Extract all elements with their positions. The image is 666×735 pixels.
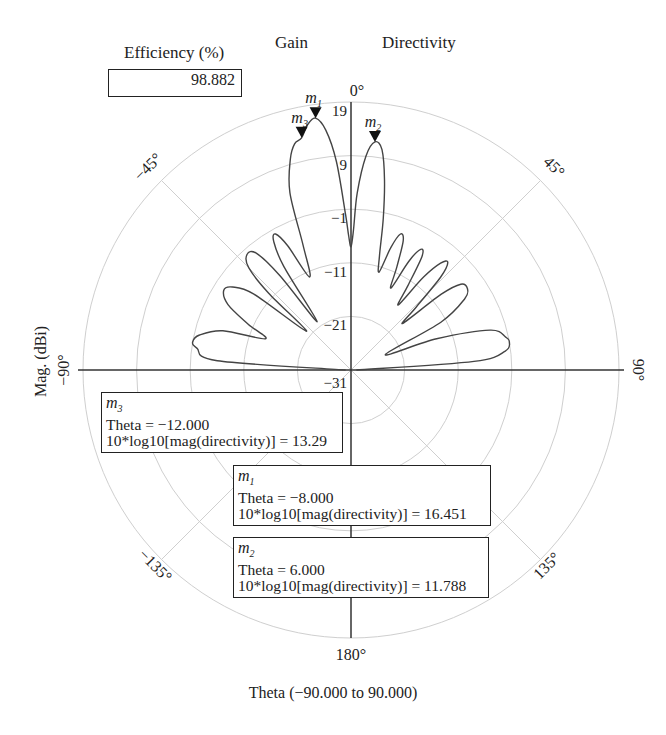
marker-box-m1: m1 Theta = −8.000 10*log10[mag(directivi… (233, 465, 491, 526)
marker-theta-m2: Theta = 6.000 (238, 562, 484, 578)
angle-tick-label: −45° (131, 150, 165, 184)
marker-m2-label: m2 (365, 113, 382, 133)
radial-tick-label: 19 (332, 103, 347, 119)
marker-name-m2: m2 (238, 540, 484, 562)
marker-value-m1: 10*log10[mag(directivity)] = 16.451 (238, 506, 486, 522)
angle-tick-label: 90° (630, 359, 647, 381)
x-axis-label: Theta (−90.000 to 90.000) (0, 684, 666, 702)
angle-tick-label: −90° (55, 354, 72, 385)
angle-tick-label: 45° (540, 153, 568, 181)
radial-tick-label: −11 (324, 264, 347, 280)
grid-spoke (161, 180, 351, 370)
angle-tick-label: 180° (336, 646, 366, 663)
radial-tick-labels: 199−1−11−21−31 (324, 103, 347, 391)
marker-m1-label: m1 (305, 89, 322, 109)
marker-name-m1: m1 (238, 468, 486, 490)
marker-value-m2: 10*log10[mag(directivity)] = 11.788 (238, 578, 484, 594)
polar-chart: 199−1−11−21−31 0°45°90°135°180°−135°−90°… (0, 0, 666, 735)
marker-name-m3: m3 (106, 395, 338, 417)
radial-tick-label: −31 (324, 375, 347, 391)
marker-value-m3: 10*log10[mag(directivity)] = 13.29 (106, 433, 338, 449)
marker-theta-m3: Theta = −12.000 (106, 417, 338, 433)
marker-box-m3: m3 Theta = −12.000 10*log10[mag(directiv… (101, 392, 343, 453)
radial-tick-label: 9 (340, 157, 348, 173)
marker-m3-label: m3 (291, 109, 308, 129)
marker-box-m2: m2 Theta = 6.000 10*log10[mag(directivit… (233, 537, 489, 598)
y-axis-label: Mag. (dBi) (32, 337, 52, 397)
marker-theta-m1: Theta = −8.000 (238, 490, 486, 506)
angle-tick-label: 0° (350, 82, 364, 99)
grid-spoke (351, 180, 541, 370)
radial-tick-label: −21 (324, 317, 347, 333)
